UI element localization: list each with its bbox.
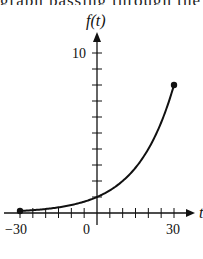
x-tick-label-neg30: −30 xyxy=(5,222,27,237)
y-tick-label-10: 10 xyxy=(72,46,86,61)
exponential-chart: f(t) 10 −30 0 30 t xyxy=(0,0,203,259)
x-axis-label: t xyxy=(199,204,203,221)
endpoint-left xyxy=(17,208,23,214)
y-axis-arrow-icon xyxy=(93,32,101,42)
x-tick-label-30: 30 xyxy=(166,222,180,237)
y-axis-label: f(t) xyxy=(86,12,106,30)
x-tick-label-0: 0 xyxy=(83,222,90,237)
endpoint-right xyxy=(171,82,177,88)
x-axis-arrow-icon xyxy=(186,209,195,217)
